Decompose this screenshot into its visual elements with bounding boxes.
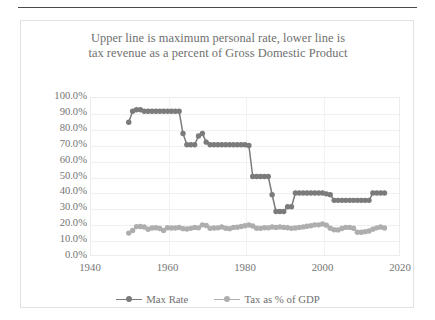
chart-legend: Max RateTax as % of GDP bbox=[21, 293, 415, 305]
y-axis-tick-label: 90.0% bbox=[41, 106, 87, 117]
y-axis-tick-label: 80.0% bbox=[41, 122, 87, 133]
x-axis-tick-labels: 19401960198020002020 bbox=[51, 261, 435, 277]
y-axis-tick-label: 30.0% bbox=[41, 201, 87, 212]
y-axis-tick-label: 40.0% bbox=[41, 185, 87, 196]
data-point-marker bbox=[130, 228, 135, 233]
data-point-marker bbox=[351, 225, 356, 230]
series-layer bbox=[90, 97, 400, 256]
x-axis-tick-label: 2020 bbox=[370, 261, 430, 273]
data-point-marker bbox=[366, 198, 371, 203]
legend-item-max-rate[interactable]: Max Rate bbox=[116, 293, 188, 305]
chart-title-line-1: Upper line is maximum personal rate, low… bbox=[21, 31, 415, 46]
legend-label: Max Rate bbox=[146, 293, 188, 305]
data-point-marker bbox=[180, 131, 185, 136]
data-point-marker bbox=[246, 143, 251, 148]
data-point-marker bbox=[192, 142, 197, 147]
y-axis-tick-label: 100.0% bbox=[41, 90, 87, 101]
data-point-marker bbox=[269, 192, 274, 197]
y-axis-tick-label: 20.0% bbox=[41, 217, 87, 228]
plot-area-wrapper bbox=[90, 97, 400, 256]
chart-container: Upper line is maximum personal rate, low… bbox=[20, 20, 414, 308]
data-point-marker bbox=[281, 209, 286, 214]
data-point-marker bbox=[382, 190, 387, 195]
x-axis-tick-label: 1940 bbox=[60, 261, 120, 273]
data-point-marker bbox=[328, 192, 333, 197]
series-max-rate bbox=[126, 107, 387, 214]
data-point-marker bbox=[289, 204, 294, 209]
y-axis-tick-label: 50.0% bbox=[41, 170, 87, 181]
x-axis-tick-label: 1980 bbox=[215, 261, 275, 273]
legend-marker-icon bbox=[214, 295, 240, 304]
y-axis-tick-labels: 0.0%10.0%20.0%30.0%40.0%50.0%60.0%70.0%8… bbox=[40, 97, 87, 256]
chart-title-line-2: tax revenue as a percent of Gross Domest… bbox=[21, 46, 415, 61]
x-axis-tick-label: 2000 bbox=[293, 261, 353, 273]
y-axis-tick-label: 10.0% bbox=[41, 233, 87, 244]
legend-marker-icon bbox=[116, 295, 142, 304]
legend-item-tax-gdp[interactable]: Tax as % of GDP bbox=[214, 293, 319, 305]
y-axis-tick-label: 70.0% bbox=[41, 138, 87, 149]
data-point-marker bbox=[126, 120, 131, 125]
legend-label: Tax as % of GDP bbox=[244, 293, 319, 305]
data-point-marker bbox=[266, 174, 271, 179]
series-line bbox=[129, 110, 385, 212]
page-separator-rule bbox=[18, 7, 417, 8]
y-axis-tick-label: 0.0% bbox=[41, 249, 87, 260]
series-tax-gdp bbox=[126, 221, 387, 236]
data-point-marker bbox=[176, 109, 181, 114]
chart-title: Upper line is maximum personal rate, low… bbox=[21, 31, 415, 61]
x-axis-tick-label: 1960 bbox=[138, 261, 198, 273]
y-axis-tick-label: 60.0% bbox=[41, 154, 87, 165]
data-point-marker bbox=[200, 131, 205, 136]
data-point-marker bbox=[382, 225, 387, 230]
